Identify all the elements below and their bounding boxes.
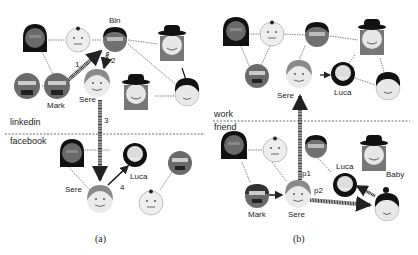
- avatar-curly-a-top[interactable]: [175, 78, 199, 106]
- arrow-path-p2: [310, 200, 370, 205]
- step-label-3: 3: [104, 117, 108, 125]
- avatar-longhair-woman-a-top[interactable]: [23, 24, 47, 52]
- avatar-mark-a[interactable]: [44, 73, 70, 99]
- avatar-hat-woman-b-bottom[interactable]: [360, 135, 388, 171]
- avatar-hat-woman-a-mid[interactable]: [122, 74, 150, 110]
- node-label-mark-a: Mark: [47, 102, 65, 110]
- layer-label-work: work: [214, 110, 233, 119]
- avatar-bald-b-top[interactable]: [260, 21, 284, 47]
- avatar-sere-a-bottom[interactable]: [87, 185, 113, 213]
- avatar-hat-woman-b-top[interactable]: [358, 19, 386, 55]
- caption-b: (b): [293, 234, 305, 244]
- avatar-glasses-man-a-bottom[interactable]: [168, 151, 192, 175]
- avatar-bald-a-bottom[interactable]: [139, 190, 163, 216]
- node-label-mark-b: Mark: [248, 211, 266, 219]
- step-label-2: 2: [111, 57, 115, 65]
- avatar-mark-b[interactable]: [245, 184, 269, 208]
- node-label-baby: Baby: [386, 171, 404, 179]
- diagram-canvas: [0, 0, 418, 255]
- layer-label-linkedin: linkedin: [10, 118, 41, 127]
- avatar-bin-a[interactable]: [103, 27, 127, 52]
- panel-b: [213, 17, 410, 221]
- avatar-glasses-man-a-left[interactable]: [14, 73, 40, 99]
- avatar-longhair-woman-b-bottom[interactable]: [221, 131, 247, 159]
- node-label-sere-b-bottom: Sere: [288, 211, 305, 219]
- node-label-sere-b-top: Sere: [277, 92, 294, 100]
- node-label-sere-a-bottom: Sere: [65, 186, 82, 194]
- arrow-step-4: [108, 166, 128, 185]
- avatar-luca-b-top[interactable]: [331, 62, 355, 86]
- avatar-longhair-woman-b-top[interactable]: [223, 17, 249, 46]
- avatar-bald-b-bottom[interactable]: [263, 137, 287, 163]
- avatar-sere-b-top[interactable]: [286, 60, 312, 88]
- layer-label-friend: friend: [214, 123, 237, 132]
- step-label-4: 4: [120, 184, 124, 192]
- avatar-bin-b-bottom[interactable]: [305, 135, 327, 158]
- avatar-hat-woman-a-top[interactable]: [158, 25, 186, 61]
- avatar-sere-a-top[interactable]: [84, 69, 110, 97]
- path-label-p2: p2: [314, 187, 323, 195]
- avatar-luca-a[interactable]: [123, 143, 147, 167]
- avatar-sere-b-bottom[interactable]: [285, 180, 311, 208]
- avatar-bin-b[interactable]: [305, 22, 329, 47]
- step-label-1: 1: [75, 61, 79, 69]
- avatar-bald-a-top[interactable]: [66, 27, 90, 53]
- arrow-step-2: [104, 52, 108, 68]
- node-label-luca-b-top: Luca: [334, 89, 351, 97]
- caption-a: (a): [95, 234, 106, 244]
- avatar-luca-b-bottom[interactable]: [333, 173, 357, 197]
- node-label-luca-a: Luca: [130, 173, 147, 181]
- node-label-luca-b-bottom: Luca: [336, 163, 353, 171]
- node-label-sere-a-top: Sere: [79, 96, 96, 104]
- avatar-baby-b[interactable]: [375, 187, 399, 221]
- path-label-p1: p1: [302, 170, 311, 178]
- avatar-glasses-man-b-top[interactable]: [245, 64, 269, 88]
- node-label-bin: Bin: [109, 17, 121, 25]
- avatar-longhair-woman-a-bottom[interactable]: [60, 139, 84, 167]
- avatar-curly-b-top[interactable]: [376, 72, 400, 100]
- arrow-baby-luca: [357, 186, 375, 196]
- layer-label-facebook: facebook: [10, 137, 47, 146]
